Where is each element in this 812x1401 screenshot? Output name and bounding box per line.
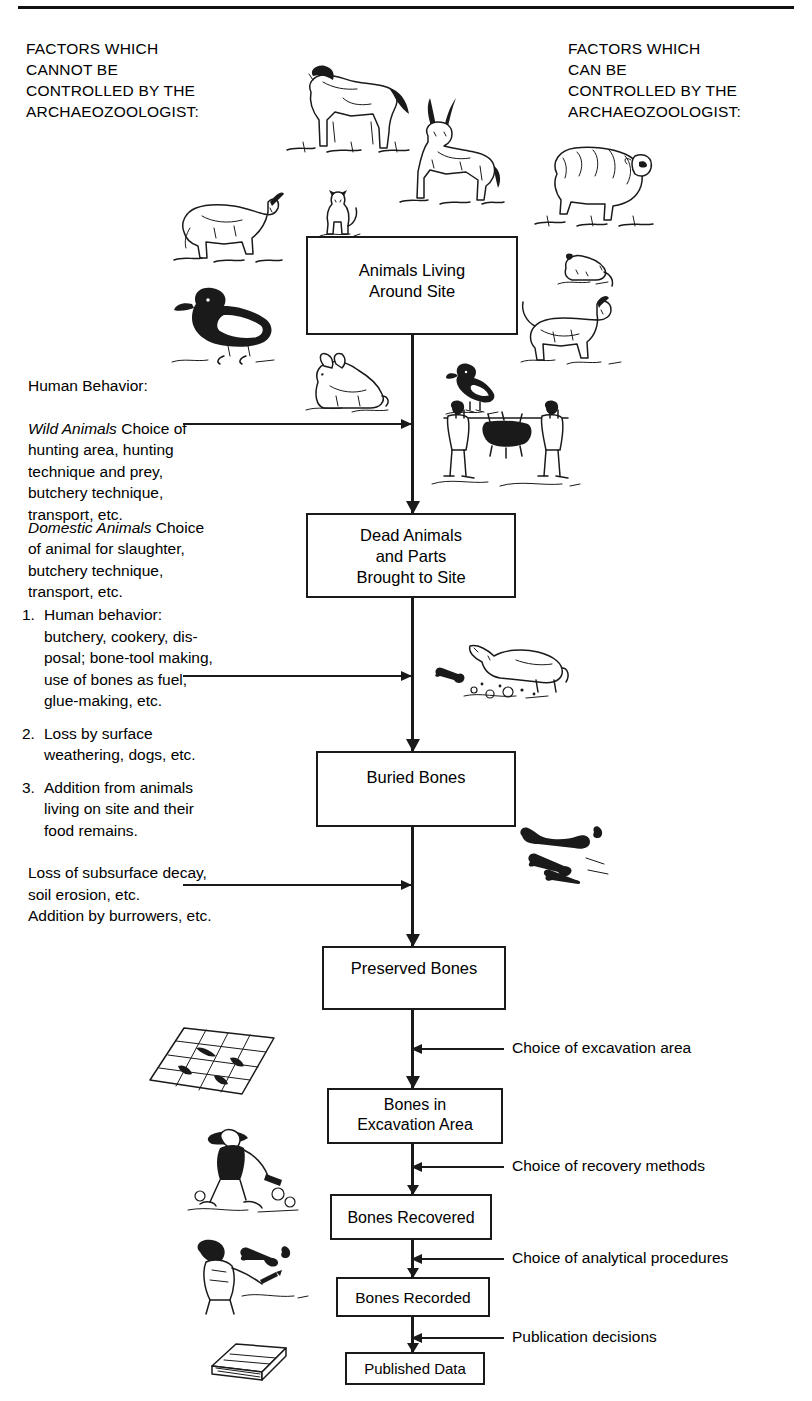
annotation-choice-of-recovery-methods: Choice of recovery methods	[512, 1156, 705, 1176]
cat-illustration	[318, 186, 362, 238]
flow-box-bones-in-excavation-area[interactable]: Bones in Excavation Area	[327, 1088, 503, 1144]
rabbit-illustration	[296, 352, 390, 414]
hunters-carrying-carcass-illustration	[430, 400, 582, 490]
arrow-publication-decisions	[412, 1337, 504, 1339]
annotation-choice-of-excavation-area: Choice of excavation area	[512, 1038, 691, 1058]
annotation-choice-of-analytical-procedures: Choice of analytical procedures	[512, 1248, 728, 1268]
duck-illustration	[170, 284, 280, 366]
dog-digging-bone-illustration	[430, 638, 570, 700]
list-item-text: Loss by surface weathering, dogs, etc.	[44, 723, 284, 766]
domestic-animals-label: Domestic Animals	[28, 519, 151, 536]
subsurface-loss-text-block: Loss of subsurface decay, soil erosion, …	[28, 862, 278, 927]
arrow-analytical-procedures-choice	[412, 1258, 504, 1260]
list-item: 1. Human behavior: butchery, cookery, di…	[22, 604, 284, 712]
right-column-header: FACTORS WHICH CAN BE CONTROLLED BY THE A…	[568, 38, 741, 122]
list-item-number: 1.	[22, 604, 44, 712]
sheep-illustration	[527, 130, 655, 230]
flow-box-buried-bones[interactable]: Buried Bones	[316, 751, 516, 827]
flow-box-animals-living-around-site[interactable]: Animals Living Around Site	[306, 236, 518, 335]
diagram-canvas: FACTORS WHICH CANNOT BE CONTROLLED BY TH…	[0, 0, 812, 1401]
publication-book-illustration	[204, 1336, 292, 1388]
lab-recording-bones-illustration	[186, 1238, 310, 1316]
arrow-taphonomy-to-stem	[183, 675, 411, 677]
domestic-animals-text-block: Domestic Animals Choice of animal for sl…	[28, 495, 243, 603]
antelope-illustration	[386, 96, 504, 206]
flow-box-bones-recovered[interactable]: Bones Recovered	[330, 1194, 492, 1240]
excavator-digging-illustration	[186, 1128, 302, 1214]
excavation-grid-illustration	[146, 1024, 278, 1106]
flow-box-preserved-bones[interactable]: Preserved Bones	[322, 946, 506, 1010]
list-item-number: 2.	[22, 723, 44, 766]
arrow-excavation-area-choice	[412, 1048, 504, 1050]
list-item: 3. Addition from animals living on site …	[22, 777, 284, 842]
arrow-subsurface-loss-to-stem	[183, 884, 411, 886]
list-item-text: Addition from animals living on site and…	[44, 777, 284, 842]
flow-box-dead-animals-brought-to-site[interactable]: Dead Animals and Parts Brought to Site	[306, 513, 516, 598]
buried-bones-illustration	[516, 822, 626, 886]
list-item: 2. Loss by surface weathering, dogs, etc…	[22, 723, 284, 766]
wild-animals-label: Wild Animals	[28, 420, 117, 437]
top-rule-divider	[18, 6, 794, 9]
goat-illustration	[172, 168, 284, 264]
human-behavior-heading: Human Behavior:	[28, 377, 148, 394]
list-item-text: Human behavior: butchery, cookery, dis- …	[44, 604, 284, 712]
flow-box-published-data[interactable]: Published Data	[345, 1352, 485, 1385]
arrow-human-behavior-to-stem	[183, 423, 411, 425]
annotation-publication-decisions: Publication decisions	[512, 1327, 657, 1347]
flow-box-bones-recorded[interactable]: Bones Recorded	[336, 1277, 490, 1317]
numbered-factors-list: 1. Human behavior: butchery, cookery, di…	[22, 604, 284, 852]
left-column-header: FACTORS WHICH CANNOT BE CONTROLLED BY TH…	[26, 38, 199, 122]
arrow-recovery-methods-choice	[412, 1166, 504, 1168]
dog-illustration	[519, 288, 623, 366]
list-item-number: 3.	[22, 777, 44, 842]
rodent-illustration	[556, 248, 614, 288]
